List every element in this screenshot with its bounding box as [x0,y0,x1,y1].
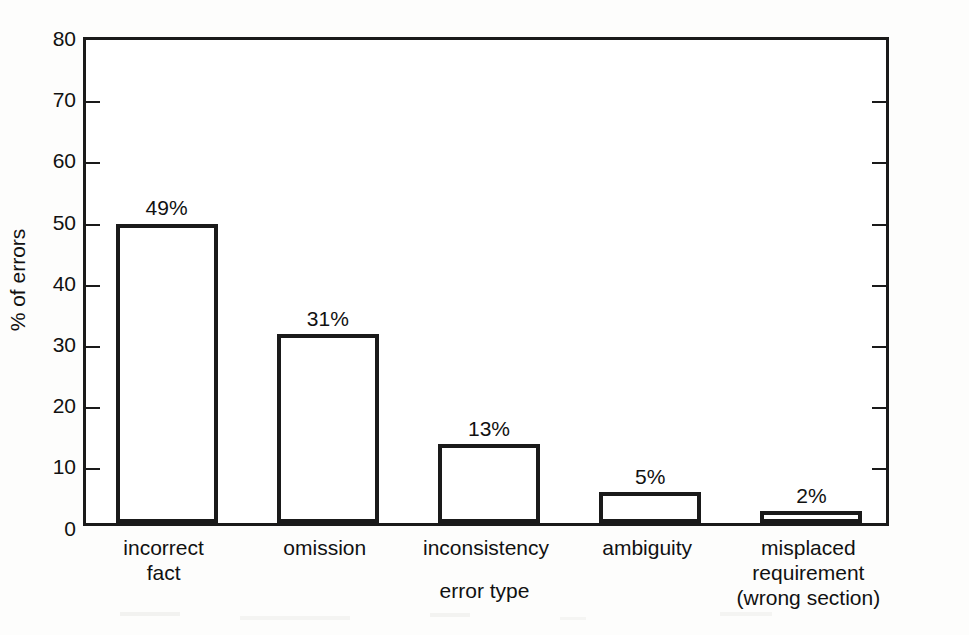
y-tick-mark-right-60 [872,162,886,164]
y-axis-tick-labels: 80 70 60 50 40 30 20 10 0 [24,37,76,526]
bar-value-ambiguity: 5% [590,466,710,487]
y-tick-mark-right-50 [872,224,886,226]
scan-speckle [120,612,180,616]
y-tick-mark-right-40 [872,285,886,287]
bar-inconsistency[interactable] [438,444,540,523]
bar-value-incorrect-fact: 49% [107,197,227,218]
bar-omission[interactable] [277,334,379,523]
bar-ambiguity[interactable] [599,492,701,523]
scan-speckle [430,613,470,617]
chart-page: 80 70 60 50 40 30 20 10 0 % of errors [0,0,969,635]
y-tick-mark-right-70 [872,101,886,103]
scan-speckle [560,617,586,620]
bar-misplaced-requirement[interactable] [760,511,862,523]
y-tick-label-80: 80 [32,28,76,49]
bar-incorrect-fact[interactable] [116,224,218,524]
y-tick-mark-20 [86,407,100,409]
y-tick-mark-50 [86,224,100,226]
y-tick-label-10: 10 [32,456,76,477]
scan-speckle [720,612,772,616]
bar-value-inconsistency: 13% [429,418,549,439]
y-tick-label-50: 50 [32,212,76,233]
scan-speckle [240,616,350,620]
y-tick-mark-40 [86,285,100,287]
bar-value-misplaced-requirement: 2% [751,485,871,506]
plot-area: 49% 31% 13% 5% 2% [83,37,889,526]
y-tick-label-70: 70 [32,89,76,110]
y-tick-label-30: 30 [32,334,76,355]
y-tick-mark-60 [86,162,100,164]
y-tick-mark-10 [86,468,100,470]
y-tick-mark-70 [86,101,100,103]
y-tick-mark-right-30 [872,346,886,348]
y-axis-title: % of errors [6,210,30,350]
x-axis-title: error type [0,579,969,603]
bar-value-omission: 31% [268,308,388,329]
y-tick-mark-30 [86,346,100,348]
y-tick-label-20: 20 [32,395,76,416]
y-tick-label-40: 40 [32,273,76,294]
y-tick-label-60: 60 [32,150,76,171]
y-tick-mark-right-20 [872,407,886,409]
y-tick-mark-right-10 [872,468,886,470]
